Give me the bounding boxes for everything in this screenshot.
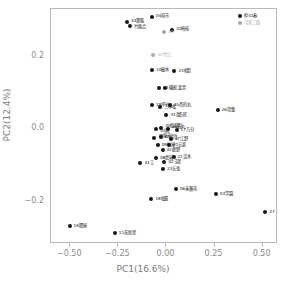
scatter-point-label: 41工 <box>144 161 153 166</box>
scatter-point <box>161 167 165 171</box>
scatter-point <box>162 160 166 164</box>
scatter-point-label: 16関屋 <box>74 223 87 228</box>
scatter-point <box>162 30 166 34</box>
x-tick-label: −0.50 <box>57 249 82 258</box>
scatter-point <box>166 127 170 131</box>
scatter-point <box>150 15 154 19</box>
scatter-point <box>169 137 173 141</box>
scatter-point <box>175 128 179 132</box>
scatter-point-label: 磯蛇.富音 <box>169 86 186 91</box>
scatter-point-label: 弓宮二船 <box>244 21 260 26</box>
scatter-point-label: 竹能合 <box>134 24 146 29</box>
scatter-point-label: 06末廣花 <box>180 186 197 191</box>
scatter-point-label: 27 <box>269 209 274 214</box>
scatter-point <box>151 53 155 57</box>
scatter-points-layer: 04前市44那能竹能合42梅枝1312竹江10樹木23相音13磯蛇.富音19坪岩… <box>50 8 277 243</box>
scatter-point <box>154 156 158 160</box>
scatter-point-label: 12竹江 <box>157 53 170 58</box>
scatter-point-label: 18松風 <box>155 197 168 202</box>
scatter-point <box>138 161 142 165</box>
y-tick-label: 0.2 <box>31 51 44 60</box>
scatter-point-label: 17万分 <box>181 128 194 133</box>
scatter-point-label: 02玉里 <box>168 160 181 165</box>
scatter-point <box>174 187 178 191</box>
y-axis-title: PC2(12.4%) <box>2 65 12 165</box>
scatter-point <box>161 148 165 152</box>
scatter-point-label: 23五鬼 <box>167 167 180 172</box>
scatter-point <box>214 192 218 196</box>
scatter-point <box>150 103 154 107</box>
scatter-point <box>263 210 267 214</box>
x-tick-label: 0.25 <box>205 249 223 258</box>
scatter-point-label: 11花新里 <box>119 231 136 236</box>
y-tick-label: −0.2 <box>25 195 44 204</box>
x-tick-mark <box>165 243 166 247</box>
scatter-point-label: 45西的丸 <box>174 103 191 108</box>
scatter-point <box>154 127 158 131</box>
scatter-point <box>152 136 156 140</box>
scatter-point <box>238 21 242 25</box>
scatter-point-label: 23相音 <box>178 69 191 74</box>
scatter-point <box>156 143 160 147</box>
x-tick-label: 0.50 <box>253 249 271 258</box>
scatter-point <box>149 197 153 201</box>
scatter-point-label: 04前市 <box>156 14 169 19</box>
scatter-point-label: 26常盤 <box>222 108 235 113</box>
x-axis-title: PC1(16.6%) <box>0 264 286 274</box>
scatter-point <box>158 105 162 109</box>
scatter-point-label: 44那能 <box>131 18 144 23</box>
scatter-point <box>150 68 154 72</box>
x-tick-mark <box>262 243 263 247</box>
x-tick-mark <box>214 243 215 247</box>
scatter-point <box>238 14 242 18</box>
scatter-point-label: 31真名旺 <box>170 112 187 117</box>
y-axis-ticks: 0.20.0−0.2 <box>24 0 44 283</box>
x-tick-mark <box>117 243 118 247</box>
scatter-point-label: 47江野 <box>175 137 188 142</box>
scatter-point <box>68 224 72 228</box>
scatter-point-label: 03学園 <box>220 192 233 197</box>
scatter-point <box>128 24 132 28</box>
y-tick-label: 0.0 <box>31 123 44 132</box>
scatter-point-label: 13 <box>168 30 173 35</box>
x-tick-label: −0.25 <box>105 249 130 258</box>
x-tick-mark <box>69 243 70 247</box>
scatter-point-label: 枠41春 <box>244 14 257 19</box>
scatter-point <box>216 108 220 112</box>
pca-scatter-plot: PC2(12.4%) 0.20.0−0.2 −0.50−0.250.000.25… <box>0 0 286 283</box>
scatter-point <box>164 113 168 117</box>
scatter-point <box>113 231 117 235</box>
scatter-point-label: 32藤野 <box>167 147 180 152</box>
x-tick-label: 0.00 <box>157 249 175 258</box>
scatter-point <box>157 86 161 90</box>
scatter-point <box>172 69 176 73</box>
scatter-point-label: 10樹木 <box>156 68 169 73</box>
scatter-point <box>159 135 163 139</box>
scatter-point-label: 42梅枝 <box>176 27 189 32</box>
scatter-point <box>168 103 172 107</box>
